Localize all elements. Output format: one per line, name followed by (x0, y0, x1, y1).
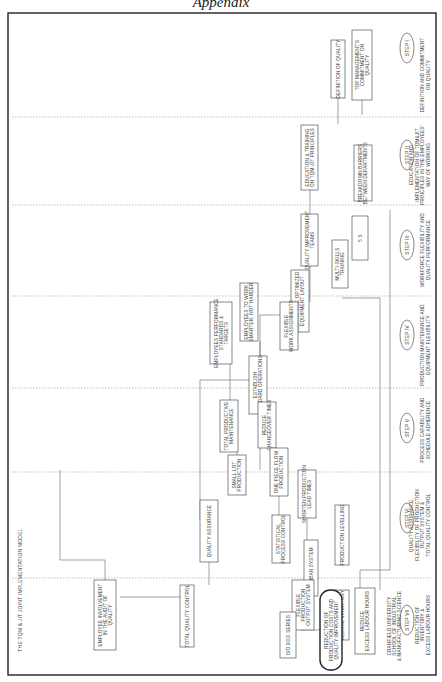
box-text-line: QUALITY (108, 604, 113, 625)
box-text: DEFINITION OF QUALITY (336, 40, 341, 99)
step-label-line: STEP III (405, 235, 410, 254)
box-text-line: PROCESS CONTROL (281, 514, 286, 563)
step-label: STEP V (405, 418, 410, 437)
connector-line (60, 470, 105, 580)
box-reduce-changeover: REDUCECHANGEOVER TIMES (258, 399, 276, 450)
step-7: STEP VIIREDUCTION OFINVENTORY &EXCESS LA… (400, 595, 431, 655)
step-description-line: PRODUCTION MAINTENANCE AND (420, 304, 425, 386)
box-top-management: TOP MANAGEMENT'SCOMMITMENT ONQUALITY (352, 30, 372, 100)
step-label-line: STEP VII (405, 609, 410, 630)
step-1: STEP IDEFINITION AND COMMITMENTON QUALIT… (400, 33, 431, 112)
box-breakdown-barriers: BREAKDOWN BARRIERSBETWEEN DEPARTMENTS (354, 142, 372, 204)
step-description: REDUCTION OFINVENTORY &EXCESS LABOUR HOU… (415, 595, 431, 655)
step-description: WORKFORCE FLEXIBILITY ANDQUALITY PERFORM… (420, 212, 430, 287)
step-description-line: SCHEDULE ADHERENCE (426, 401, 431, 459)
box-text-line: 5 S (358, 234, 363, 242)
box-text: EMPLOYEES TO WORKSMARTER, NOT HARDER (244, 282, 254, 341)
box-text-line: PRODUCTION (237, 459, 242, 492)
box-text-line: ON TQM-JIT PRINCIPLES (310, 128, 315, 187)
box-reduce-labour: REDUCEEXCESS LABOUR HOURS (355, 588, 375, 654)
step-description-line: PRINCIPLES IN THE EMPLOYEES' (420, 125, 425, 205)
box-text-line: WORK ASSIGNMENTS (289, 300, 294, 352)
box-text: 5 S (358, 234, 363, 242)
tqm-jit-diagram: TOP MANAGEMENT'SCOMMITMENT ONQUALITYDEFI… (0, 0, 442, 682)
box-text: TOTAL QUALITY CONTROL (185, 584, 190, 647)
step-label: STEP VII (405, 609, 410, 630)
box-employees-performance: EMPLOYEES PERFORMANCESTANDARDS &TARGETS (210, 298, 232, 368)
box-iso9000: ISO 9000 SERIES (280, 612, 296, 658)
box-text-line: QUALITY (365, 54, 370, 75)
box-text-line: EXCESS LABOUR HOURS (365, 591, 370, 651)
step-label: STEP III (405, 235, 410, 254)
box-text: BREAKDOWN BARRIERSBETWEEN DEPARTMENTS (358, 142, 368, 204)
step-description-line: INVENTORY & (420, 608, 425, 641)
box-definition-quality: DEFINITION OF QUALITY (331, 40, 345, 99)
box-text-line: DEFINITION OF QUALITY (336, 40, 341, 99)
step-6: STEP VIQUALITY ASSURANCE,FLEXIBILITY OF … (400, 489, 431, 561)
step-label-line: STEP V (405, 418, 410, 437)
box-text: ISO 9000 SERIES (286, 615, 291, 656)
step-labels: STEP IDEFINITION AND COMMITMENTON QUALIT… (400, 33, 431, 655)
box-text: QUALITY ASSURANCE (207, 505, 212, 558)
box-text-line: LEAD TIMES (307, 479, 312, 508)
box-text-line: PRODUCTION (279, 456, 284, 489)
step-description: PROCESS CAPABILITY ANDSCHEDULE ADHERENCE (420, 397, 430, 462)
box-quality-teams: QUALITY IMPROVEMENTTEAMS (301, 211, 318, 270)
box-employees-work-smarter: EMPLOYEES TO WORKSMARTER, NOT HARDER (240, 282, 258, 341)
box-text-line: MAINTENANCE (229, 408, 234, 444)
box-multiskills: MULTI-SKILLSTRAINING (332, 240, 348, 288)
step-label-line: STEP I (405, 40, 410, 56)
step-description-line: TOTAL QUALITY CONTROL (426, 493, 431, 556)
box-quality-assurance: QUALITY ASSURANCE (200, 500, 218, 562)
source-note-line: & MANUFACTURING SCIENCE (397, 591, 402, 662)
figure-caption: THE TQM & JIT JOINT IMPLEMENTATION MODEL (17, 528, 23, 651)
box-text: SMALL LOTPRODUCTION (232, 459, 242, 492)
step-description-line: EQUIPMENT FLEXIBILITY (426, 315, 431, 375)
box-text-line: SMARTER, NOT HARDER (249, 282, 254, 341)
step-description-line: QUALITY ASSURANCE, (409, 498, 414, 552)
step-description-line: QUALITY PERFORMANCE (426, 220, 431, 280)
box-final-goal: REDUCTION OFPRODUCTION COSTS ANDQUALITY … (320, 590, 342, 670)
box-text-line: TOTAL QUALITY CONTROL (185, 584, 190, 647)
box-tpm: TOTAL PRODUCTIVEMAINTENANCE (220, 400, 238, 452)
box-text-line: PRODUCTION LEVELLING (340, 504, 345, 565)
step-description-line: WAY OF WORKING (426, 143, 431, 187)
step-description-line: ON QUALITY (426, 60, 431, 90)
step-description-line: OUTPUT SYSTEM & (420, 502, 425, 548)
step-description-line: EXCESS LABOUR HOURS (426, 595, 431, 655)
step-description-line: DEFINITION AND COMMITMENT (420, 38, 425, 113)
figure-caption-line: THE TQM & JIT JOINT IMPLEMENTATION MODEL (17, 528, 23, 651)
step-description-line: REDUCTION OF (415, 606, 420, 643)
box-education-training: EDUCATION & TRAININGON TQM-JIT PRINCIPLE… (301, 125, 318, 190)
source-note: CRANFIELD UNIVERSITYSCHOOL OF INDUSTRIAL… (387, 591, 402, 662)
connector-line (338, 98, 362, 124)
box-text: PRODUCTION LEVELLING (340, 504, 345, 565)
box-five-s: 5 S (352, 216, 368, 260)
box-text: MULTI-SKILLSTRAINING (335, 248, 345, 281)
step-description: EDUCATION ANDIMPLEMENTATION OF TQM&JITPR… (409, 125, 430, 205)
step-4: STEP IVPRODUCTION MAINTENANCE ANDEQUIPME… (400, 304, 431, 386)
box-text: EDUCATION & TRAININGON TQM-JIT PRINCIPLE… (305, 128, 315, 187)
step-description-line: IMPLEMENTATION OF TQM&JIT (415, 128, 420, 202)
step-description: PRODUCTION MAINTENANCE ANDEQUIPMENT FLEX… (420, 304, 430, 386)
box-shorten-lead: SHORTEN PRODUCTIONLEAD TIMES (298, 465, 316, 523)
step-3: STEP IIIWORKFORCE FLEXIBILITY ANDQUALITY… (400, 212, 431, 287)
step-label-line: STEP IV (405, 325, 410, 345)
box-text-line: BETWEEN DEPARTMENTS (363, 142, 368, 204)
step-description-line: FLEXIBILITY OF PRODUCTION (415, 489, 420, 561)
box-one-piece-flow: ONE PIECE FLOWPRODUCTION (270, 448, 288, 496)
final-goal-text-line: QUALITY IMPROVEMENT (334, 601, 339, 660)
step-description-line: PROCESS CAPABILITY AND (420, 397, 425, 462)
step-5: STEP VPROCESS CAPABILITY ANDSCHEDULE ADH… (400, 397, 431, 462)
connector-line (360, 210, 390, 588)
box-text-line: TEAMS (310, 232, 315, 249)
box-text: TOTAL PRODUCTIVEMAINTENANCE (224, 402, 234, 451)
box-small-lot: SMALL LOTPRODUCTION (228, 455, 246, 495)
process-boxes: TOP MANAGEMENT'SCOMMITMENT ONQUALITYDEFI… (94, 30, 375, 670)
step-label: STEP I (405, 40, 410, 56)
box-text-line: ISO 9000 SERIES (286, 615, 291, 656)
step-description-line: WORKFORCE FLEXIBILITY AND (420, 212, 425, 287)
step-label: STEP IV (405, 325, 410, 345)
box-text-line: CHANGEOVER TIMES (267, 399, 272, 450)
box-text-line: QUALITY ASSURANCE (207, 505, 212, 558)
